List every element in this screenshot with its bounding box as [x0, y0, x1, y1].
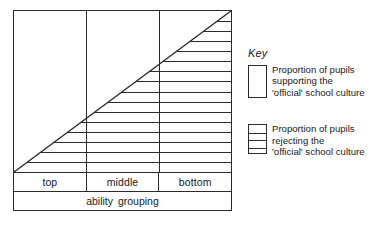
key-text-rejecting-line2: rejecting the [272, 135, 365, 146]
category-label-bottom: bottom [179, 177, 212, 188]
category-cell-middle: middle [87, 173, 160, 191]
category-label-top: top [42, 177, 57, 188]
key-text-supporting-line1: Proportion of pupils [272, 64, 365, 75]
axis-title-row: ability grouping [13, 192, 232, 211]
diagonal-boundary-line [14, 11, 231, 172]
key-entry-rejecting: Proportion of pupils rejecting the 'offi… [248, 123, 384, 157]
key-text-supporting: Proportion of pupils supporting the 'off… [272, 64, 365, 98]
key-title: Key [248, 48, 384, 59]
plot-canvas [14, 11, 231, 172]
key-legend: Key Proportion of pupils supporting the … [248, 48, 384, 157]
key-swatch-hatched-icon [248, 124, 267, 154]
key-swatch-hatch-line [249, 148, 266, 149]
key-text-rejecting-line3: 'official' school culture [272, 146, 365, 157]
key-text-rejecting-line1: Proportion of pupils [272, 123, 365, 134]
category-label-middle: middle [107, 177, 139, 188]
key-swatch-hatch-line [249, 133, 266, 134]
ability-grouping-school-culture-diagram: top middle bottom ability grouping Key P… [0, 0, 384, 229]
key-swatch-hatch-line [249, 140, 266, 141]
hatch-fill-rejecting [27, 22, 231, 163]
key-swatch-plain-icon [248, 65, 267, 98]
category-label-row: top middle bottom [13, 173, 232, 192]
key-entry-supporting: Proportion of pupils supporting the 'off… [248, 64, 384, 98]
chart-area: top middle bottom ability grouping [13, 10, 232, 211]
category-cell-top: top [14, 173, 87, 191]
plot-frame [13, 10, 232, 173]
category-cell-bottom: bottom [159, 173, 231, 191]
key-text-supporting-line3: 'official' school culture [272, 87, 365, 98]
key-text-supporting-line2: supporting the [272, 75, 365, 86]
x-axis-title: ability grouping [86, 196, 159, 207]
key-text-rejecting: Proportion of pupils rejecting the 'offi… [272, 123, 365, 157]
